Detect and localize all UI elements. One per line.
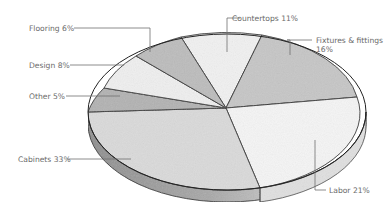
label-other: Other 5% — [29, 92, 65, 101]
label-flooring: Flooring 6% — [29, 24, 74, 33]
leader-flooring — [74, 28, 150, 52]
pie-slices — [88, 33, 360, 191]
label-labor: Labor 21% — [329, 186, 370, 195]
label-cabinets: Cabinets 33% — [18, 155, 71, 164]
pie-chart: Flooring 6% Design 8% Other 5% Cabinets … — [0, 0, 391, 217]
label-fixtures-line1: Fixtures & fittings — [316, 36, 383, 45]
label-countertops: Countertops 11% — [232, 14, 298, 23]
label-design: Design 8% — [29, 61, 70, 70]
label-fixtures-line2: 16% — [316, 45, 333, 54]
